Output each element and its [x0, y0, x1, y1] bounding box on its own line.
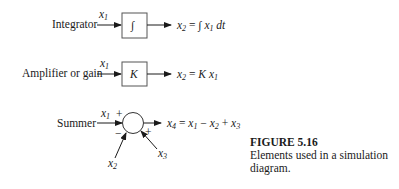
integrator-block	[122, 13, 147, 38]
integrator-input-x1: x1	[98, 8, 108, 22]
integrator-output-equation: x2 = ∫ x1 dt	[176, 19, 226, 33]
summing-junction	[123, 113, 144, 134]
caption-line-2: diagram.	[250, 162, 399, 175]
summer-output-equation: x4 = x1 − x2 + x3	[166, 117, 240, 131]
summer-label: Summer	[57, 117, 96, 129]
amplifier-element: Amplifier or gain x1 K x2 = K x1	[22, 57, 218, 86]
amplifier-label: Amplifier or gain	[22, 67, 103, 80]
integrator-label: Integrator	[52, 18, 98, 31]
figure-number: FIGURE 5.16	[250, 136, 399, 149]
integrator-element: Integrator x1 ∫ x2 = ∫ x1 dt	[52, 8, 226, 38]
amplifier-output-equation: x2 = K x1	[176, 68, 218, 82]
summer-plus-x1: +	[116, 108, 123, 120]
summer-minus-x2: −	[115, 127, 122, 139]
summer-input-x3: x3	[157, 147, 167, 161]
gain-k-symbol: K	[129, 68, 139, 80]
summer-element: Summer x1 + x4 = x1 − x2 + x3 − x2 + x3	[57, 107, 240, 171]
amplifier-input-x1: x1	[99, 57, 109, 71]
summer-input-x1: x1	[100, 107, 110, 121]
figure-caption: FIGURE 5.16 Elements used in a simulatio…	[250, 136, 399, 175]
caption-line-1: Elements used in a simulation	[250, 149, 399, 162]
summer-input-x2: x2	[107, 157, 117, 171]
summer-plus-x3: +	[145, 126, 152, 138]
